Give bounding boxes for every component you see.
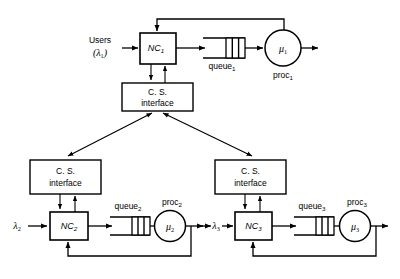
- queue1-label: queue1: [208, 61, 236, 72]
- proc1-label: proc1: [273, 70, 294, 81]
- diagram-canvas: Users (λ1) NC1 queue1 μ1 proc1 C. S. int…: [0, 0, 400, 279]
- queue1-shape: [203, 38, 245, 58]
- cs-right-nc3-link: [245, 194, 260, 212]
- users-label: Users: [89, 35, 111, 45]
- cs-right-label-line1: C. S.: [241, 166, 260, 176]
- cs-right-label-line2: interface: [234, 178, 267, 188]
- proc3-label: proc3: [347, 197, 368, 208]
- cs-left-label-line2: interface: [49, 178, 82, 188]
- cs-top-label-line2: interface: [141, 98, 174, 108]
- cs-left-nc2-link: [60, 194, 75, 212]
- lambda3-label: λ3: [211, 220, 219, 232]
- queueing-network-diagram: Users (λ1) NC1 queue1 μ1 proc1 C. S. int…: [0, 0, 400, 279]
- proc2-label: proc2: [162, 197, 183, 208]
- queue3-label: queue3: [298, 201, 326, 212]
- queue2-label: queue2: [114, 201, 142, 212]
- nc1-cs-top-link: [151, 64, 165, 83]
- cs-top-to-cs-left-connector: [68, 113, 152, 156]
- lambda1-label: (λ1): [93, 47, 108, 59]
- queue3-shape: [294, 217, 334, 235]
- cs-left-label-line1: C. S.: [56, 166, 75, 176]
- queue2-shape: [110, 217, 150, 235]
- cs-top-to-cs-right-connector: [163, 113, 252, 156]
- lambda2-label: λ2: [12, 220, 20, 232]
- cs-top-label-line1: C. S.: [148, 87, 167, 97]
